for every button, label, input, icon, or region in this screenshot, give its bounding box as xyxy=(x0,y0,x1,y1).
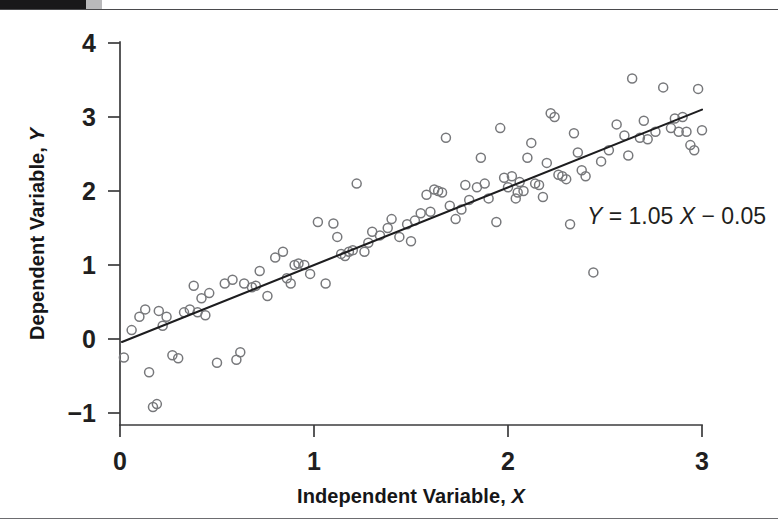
regression-equation-label: Y = 1.05 X − 0.05 xyxy=(587,203,766,229)
scatter-point xyxy=(201,311,210,320)
scatter-point xyxy=(480,179,489,188)
scatter-point xyxy=(426,207,435,216)
scatter-point xyxy=(597,157,606,166)
scatter-point xyxy=(461,181,470,190)
scatter-point xyxy=(624,151,633,160)
scatter-point xyxy=(352,179,361,188)
scatter-point xyxy=(639,116,648,125)
scatter-point xyxy=(492,218,501,227)
scatter-point xyxy=(306,269,315,278)
scatter-point xyxy=(569,129,578,138)
scatter-point xyxy=(527,138,536,147)
scatter-point xyxy=(407,237,416,246)
y-tick-label-3: 3 xyxy=(82,103,96,131)
scatter-point xyxy=(162,312,171,321)
x-axis-ticks xyxy=(120,425,702,437)
scatter-point xyxy=(360,247,369,256)
scatter-point xyxy=(476,153,485,162)
scatter-point xyxy=(659,83,668,92)
x-axis-title-symbol: X xyxy=(511,485,527,507)
scatter-point xyxy=(542,158,551,167)
y-tick-label-minus-1: −1 xyxy=(67,399,96,427)
y-axis-ticks xyxy=(108,43,120,413)
scatter-point xyxy=(628,74,637,83)
equation-part: X xyxy=(679,203,697,229)
scatter-point xyxy=(383,224,392,233)
scatter-point xyxy=(698,126,707,135)
scatter-point xyxy=(513,188,522,197)
scatter-point xyxy=(228,275,237,284)
scatter-point xyxy=(278,247,287,256)
x-tick-label-2: 2 xyxy=(501,447,515,475)
scatter-point xyxy=(205,289,214,298)
figure-page: 4 3 2 1 0 −1 0 1 2 3 Dependent Variable,… xyxy=(0,0,778,528)
scatter-point xyxy=(189,281,198,290)
scatter-point xyxy=(519,187,528,196)
x-axis-title: Independent Variable, X xyxy=(297,485,526,507)
y-axis-title: Dependent Variable, Y xyxy=(26,126,48,340)
equation-part: − 0.05 xyxy=(695,203,766,229)
scatter-point xyxy=(496,124,505,133)
y-tick-label-2: 2 xyxy=(82,177,96,205)
scatter-point xyxy=(213,358,222,367)
scatter-markers xyxy=(119,74,706,412)
scatter-point xyxy=(321,279,330,288)
scatter-point xyxy=(523,153,532,162)
scatter-point xyxy=(145,368,154,377)
x-tick-label-0: 0 xyxy=(113,447,127,475)
scatter-point xyxy=(566,220,575,229)
y-axis-title-text: Dependent Variable, xyxy=(26,141,48,340)
scatter-point xyxy=(263,292,272,301)
scatter-point xyxy=(329,219,338,228)
scatter-point xyxy=(416,209,425,218)
x-tick-label-3: 3 xyxy=(695,447,709,475)
scatter-point xyxy=(694,84,703,93)
scatter-point xyxy=(255,266,264,275)
scatter-point xyxy=(511,194,520,203)
scatter-point xyxy=(232,355,241,364)
scatter-point xyxy=(441,133,450,142)
scatter-point xyxy=(451,215,460,224)
scatter-point xyxy=(538,192,547,201)
scatter-plot-figure: 4 3 2 1 0 −1 0 1 2 3 Dependent Variable,… xyxy=(0,0,778,528)
scatter-point xyxy=(127,326,136,335)
scatter-point xyxy=(573,148,582,157)
scatter-point xyxy=(141,305,150,314)
scatter-point xyxy=(395,232,404,241)
y-tick-label-0: 0 xyxy=(82,325,96,353)
x-axis-title-text: Independent Variable, xyxy=(297,485,511,507)
scatter-point xyxy=(612,120,621,129)
y-axis-title-symbol: Y xyxy=(26,126,48,141)
scatter-point xyxy=(333,232,342,241)
x-tick-label-1: 1 xyxy=(307,447,321,475)
y-tick-labels: 4 3 2 1 0 −1 xyxy=(67,29,96,427)
scatter-point xyxy=(271,253,280,262)
y-tick-label-4: 4 xyxy=(82,29,96,57)
y-tick-label-1: 1 xyxy=(82,251,96,279)
scatter-point xyxy=(589,268,598,277)
scatter-point xyxy=(313,218,322,227)
equation-part: = 1.05 xyxy=(602,203,679,229)
x-tick-labels: 0 1 2 3 xyxy=(113,447,709,475)
scatter-point xyxy=(387,215,396,224)
scatter-point xyxy=(154,306,163,315)
